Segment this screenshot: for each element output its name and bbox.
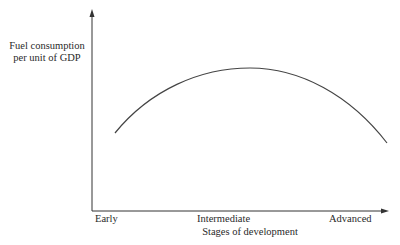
x-tick-advanced: Advanced	[329, 213, 372, 225]
y-axis-label-line-2: per unit of GDP	[4, 52, 90, 64]
x-tick-intermediate: Intermediate	[197, 213, 250, 225]
x-axis-arrow-icon	[381, 209, 389, 214]
y-axis-arrow-icon	[90, 9, 95, 17]
fuel-consumption-curve	[115, 68, 387, 143]
y-axis-label-line-1: Fuel consumption	[4, 40, 90, 52]
y-axis-label: Fuel consumption per unit of GDP	[4, 40, 90, 64]
x-axis-title: Stages of development	[170, 226, 330, 238]
chart-canvas	[0, 0, 400, 245]
x-tick-early: Early	[95, 213, 118, 225]
